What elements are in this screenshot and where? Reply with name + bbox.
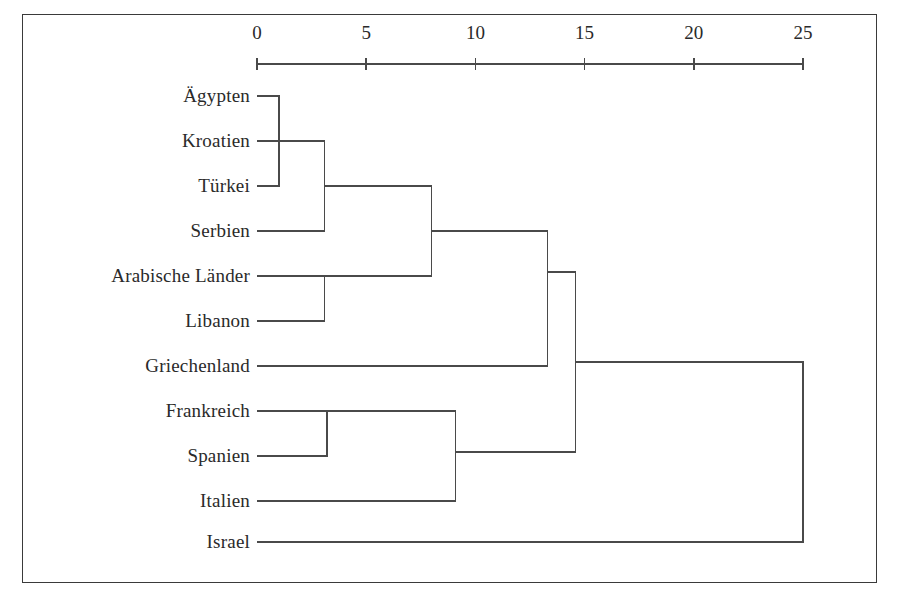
link-m3-m4 (325, 186, 432, 276)
axis-tick-label-10: 10 (466, 22, 485, 44)
axis-tick-label-0: 0 (252, 22, 262, 44)
leaf-label-kroatien: Kroatien (40, 130, 250, 152)
leaf-label-arabische-laender: Arabische Länder (40, 265, 250, 287)
leaf-label-spanien: Spanien (40, 445, 250, 467)
link-frankreich-spanien (257, 411, 327, 456)
axis-tick-label-25: 25 (794, 22, 813, 44)
axis-tick-label-5: 5 (361, 22, 371, 44)
leaf-label-israel: Israel (40, 531, 250, 553)
leaf-label-tuerkei: Türkei (40, 175, 250, 197)
axis-group (257, 58, 803, 70)
axis-tick-label-20: 20 (684, 22, 703, 44)
leaf-label-frankreich: Frankreich (40, 400, 250, 422)
leaf-label-aegypten: Ägypten (40, 85, 250, 107)
link-m8-m7 (455, 272, 575, 452)
link-arabischelaender-libanon (257, 276, 325, 321)
link-m5-griechenland (257, 231, 547, 366)
linkage-lines (257, 96, 803, 542)
leaf-label-serbien: Serbien (40, 220, 250, 242)
leaf-label-italien: Italien (40, 490, 250, 512)
leaf-label-griechenland: Griechenland (40, 355, 250, 377)
leaf-label-libanon: Libanon (40, 310, 250, 332)
dendrogram-figure: 0 5 10 15 20 25 Ägypten Kroatien Türkei … (0, 0, 898, 604)
axis-tick-label-15: 15 (575, 22, 594, 44)
